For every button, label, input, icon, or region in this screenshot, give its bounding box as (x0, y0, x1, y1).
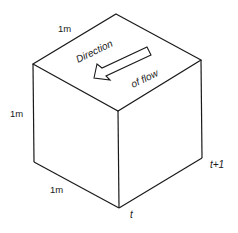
cube-bottom-left-edge (34, 162, 119, 208)
cube-diagram: 1m 1m 1m Direction of flow t t+1 (0, 0, 238, 233)
bottom-edge-label: 1m (50, 184, 63, 195)
cube-bottom-right-edge (119, 158, 202, 208)
cube-left-edge (33, 64, 34, 162)
time-t-plus-1-label: t+1 (210, 159, 224, 170)
left-edge-label: 1m (10, 108, 23, 119)
cube-front-edge (118, 111, 119, 208)
time-t-label: t (130, 209, 134, 220)
cube (33, 14, 202, 208)
top-edge-label: 1m (58, 23, 71, 34)
of-flow-label: of flow (129, 67, 160, 90)
cube-right-edge (201, 60, 202, 158)
direction-label: Direction (74, 37, 115, 64)
